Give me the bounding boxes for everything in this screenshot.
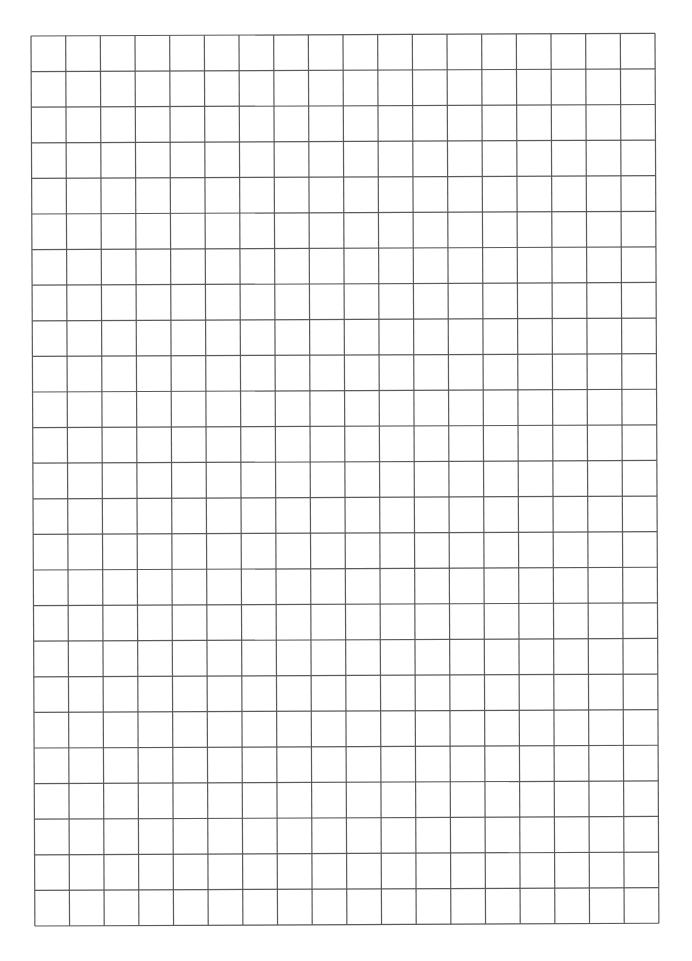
vertical-grid-line (31, 36, 35, 926)
vertical-grid-line (655, 33, 659, 923)
vertical-grid-line (66, 36, 70, 926)
vertical-grid-line (586, 34, 590, 924)
vertical-grid-line (308, 35, 312, 925)
vertical-grid-line (274, 35, 278, 925)
vertical-grid-line (135, 36, 139, 926)
vertical-grid-line (239, 35, 243, 925)
vertical-grid-line (343, 35, 347, 925)
vertical-grid-line (482, 34, 486, 924)
grid-lines (31, 33, 659, 926)
vertical-grid-line (516, 34, 520, 924)
vertical-grid-line (447, 34, 451, 924)
graph-paper-sheet (0, 0, 692, 961)
vertical-grid-line (412, 34, 416, 924)
vertical-grid-line (204, 35, 208, 925)
vertical-grid-line (551, 34, 555, 924)
vertical-grid-line (170, 35, 174, 925)
vertical-grid-line (620, 33, 624, 923)
vertical-grid-line (378, 34, 382, 924)
vertical-grid-line (100, 36, 104, 926)
square-grid (31, 33, 659, 926)
